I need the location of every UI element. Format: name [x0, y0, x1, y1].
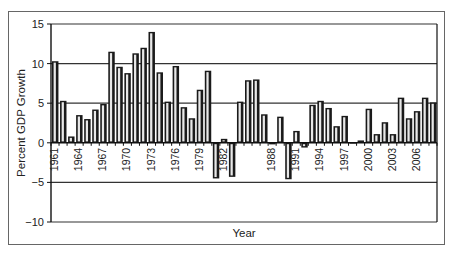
x-tick-label: 1988 — [265, 148, 277, 172]
bar-1996 — [333, 126, 339, 143]
bar-1995 — [325, 108, 331, 143]
x-tick-label: 1994 — [313, 148, 325, 172]
bar-1970 — [124, 73, 130, 143]
x-tick-label: 1976 — [169, 148, 181, 172]
bar-1979 — [197, 90, 203, 143]
y-tick-label: 10 — [32, 58, 44, 70]
bar-2007 — [422, 98, 428, 143]
bar-2006 — [414, 111, 420, 143]
x-tick-label: 2006 — [410, 148, 422, 172]
y-axis-ticks: 151050−5−10 — [25, 18, 51, 228]
bar-2000 — [366, 109, 372, 143]
bar-1976 — [173, 66, 179, 143]
bar-1983 — [229, 143, 235, 177]
bar-1992 — [301, 143, 307, 148]
bar-1991 — [293, 131, 299, 143]
y-tick-label: −5 — [31, 176, 44, 188]
bar-1965 — [84, 119, 90, 143]
bar-1961 — [52, 61, 58, 143]
bar-1969 — [116, 67, 122, 143]
bar-1980 — [205, 71, 211, 143]
bar-1985 — [245, 80, 251, 143]
bar-chart: 151050−5−10 1961196419671970197319761979… — [0, 0, 452, 253]
x-tick-label: 1982 — [217, 148, 229, 172]
bar-2005 — [406, 118, 412, 143]
x-tick-label: 1964 — [72, 148, 84, 172]
bar-1993 — [309, 105, 315, 143]
bar-1974 — [157, 72, 163, 142]
bar-1962 — [60, 101, 66, 143]
bar-1967 — [100, 104, 106, 143]
bar-1989 — [277, 117, 283, 143]
y-tick-label: 5 — [38, 97, 44, 109]
bar-2002 — [382, 122, 388, 143]
bar-1972 — [140, 48, 146, 143]
bar-1977 — [181, 107, 187, 143]
x-tick-label: 1970 — [120, 148, 132, 172]
bar-1968 — [108, 52, 114, 143]
x-tick-label: 1973 — [145, 148, 157, 172]
x-tick-label: 1991 — [289, 148, 301, 172]
x-tick-label: 2000 — [362, 148, 374, 172]
bar-1966 — [92, 110, 98, 143]
x-tick-label: 1967 — [96, 148, 108, 172]
bar-2004 — [398, 98, 404, 143]
y-tick-label: 15 — [32, 18, 44, 30]
bar-1984 — [237, 102, 243, 143]
bar-1986 — [253, 79, 259, 142]
bar-1987 — [261, 114, 267, 143]
y-tick-label: 0 — [38, 137, 44, 149]
bar-2008 — [430, 102, 436, 142]
bar-1964 — [76, 115, 82, 143]
x-axis-label: Year — [232, 227, 255, 239]
bar-1997 — [342, 116, 348, 143]
bar-1963 — [68, 136, 74, 142]
bar-1971 — [132, 53, 138, 142]
bar-1978 — [189, 118, 195, 143]
x-tick-label: 1979 — [193, 148, 205, 172]
bar-1994 — [317, 101, 323, 143]
bar-2001 — [374, 134, 380, 143]
bar-1975 — [165, 102, 171, 143]
bar-2003 — [390, 134, 396, 143]
x-tick-label: 2003 — [386, 148, 398, 172]
x-tick-label: 1961 — [48, 148, 60, 172]
x-tick-label: 1997 — [338, 148, 350, 172]
bar-series — [52, 32, 436, 179]
y-axis-label: Percent GDP Growth — [15, 69, 27, 177]
y-tick-label: −10 — [25, 216, 44, 228]
bar-1973 — [149, 32, 155, 143]
